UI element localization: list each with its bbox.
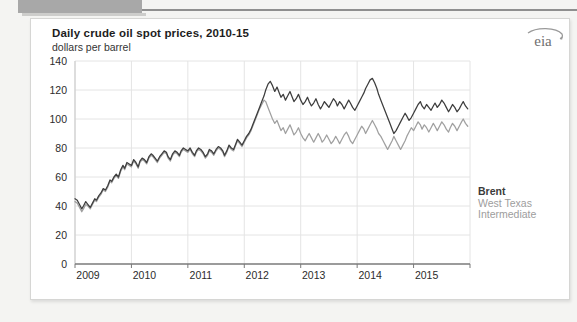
screenshot-root: Daily crude oil spot prices, 2010-15 dol…: [0, 0, 577, 322]
svg-text:2012: 2012: [246, 269, 270, 281]
svg-text:2013: 2013: [302, 269, 326, 281]
svg-text:2011: 2011: [190, 269, 213, 281]
svg-text:140: 140: [49, 55, 67, 67]
legend-item-wti-line2: Intermediate: [478, 209, 570, 221]
svg-text:40: 40: [55, 200, 67, 212]
svg-text:20: 20: [55, 229, 67, 241]
chart-legend: Brent West Texas Intermediate: [478, 186, 570, 221]
svg-text:100: 100: [49, 113, 67, 125]
line-chart-svg: 0204060801001201402009201020112012201320…: [0, 0, 577, 322]
svg-text:60: 60: [55, 171, 67, 183]
svg-text:2010: 2010: [133, 269, 157, 281]
legend-item-brent: Brent: [478, 186, 570, 198]
svg-text:80: 80: [55, 142, 67, 154]
svg-text:2014: 2014: [358, 269, 382, 281]
svg-text:2015: 2015: [415, 269, 439, 281]
plot-area: 0204060801001201402009201020112012201320…: [0, 0, 577, 322]
svg-text:0: 0: [61, 258, 67, 270]
svg-text:120: 120: [49, 84, 67, 96]
svg-text:2009: 2009: [76, 269, 100, 281]
